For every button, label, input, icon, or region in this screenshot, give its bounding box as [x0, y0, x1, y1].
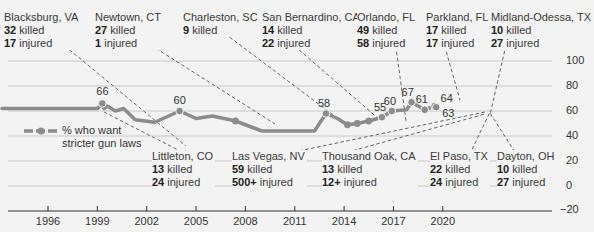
annotation-place: Las Vegas, NV [232, 150, 305, 163]
y-tick-label: 0 [566, 179, 572, 191]
annotation-place: Charleston, SC [183, 11, 258, 24]
annotation-san-bernardino-ca: San Bernardino, CA14 killed22 injured [262, 11, 362, 50]
annotation-killed: 49 killed [357, 24, 415, 37]
data-value-label: 61 [416, 93, 428, 105]
annotation-injured: 22 injured [262, 37, 360, 50]
annotation-killed: 10 killed [491, 24, 591, 37]
annotation-midland-odessa-tx: Midland-Odessa, TX10 killed27 injured [491, 11, 593, 50]
x-tick-label: 2005 [184, 215, 208, 227]
annotation-killed: 32 killed [4, 24, 78, 37]
annotation-parkland-fl: Parkland, FL17 killed17 injured [426, 11, 490, 50]
annotation-injured: 1 injured [95, 37, 161, 50]
data-value-label: 64 [441, 92, 453, 104]
annotation-place: Blacksburg, VA [4, 11, 78, 24]
annotation-killed: 59 killed [232, 163, 305, 176]
legend-label-line2: stricter gun laws [62, 137, 141, 150]
annotation-killed: 10 killed [497, 163, 554, 176]
annotation-killed: 9 killed [183, 24, 258, 37]
data-value-label: 63 [442, 107, 454, 119]
annotation-killed: 13 killed [322, 163, 416, 176]
data-value-label: 67 [402, 86, 414, 98]
annotation-injured: 27 injured [497, 176, 554, 189]
data-value-label: 66 [96, 85, 108, 97]
annotation-thousand-oak-ca: Thousand Oak, CA13 killed12+ injured [322, 150, 418, 189]
annotation-killed: 22 killed [430, 163, 488, 176]
x-tick-label: 2002 [134, 215, 158, 227]
legend-swatch-icon [24, 126, 58, 136]
annotation-injured: 58 injured [357, 37, 415, 50]
y-tick-label: 80 [566, 79, 578, 91]
annotation-injured: 24 injured [430, 176, 488, 189]
data-point [388, 107, 396, 115]
annotation-orlando-fl: Orlando, FL49 killed58 injured [357, 11, 417, 50]
data-point [432, 103, 440, 111]
data-point [98, 100, 106, 108]
annotation-injured: 17 injured [4, 37, 78, 50]
y-tick-label: 60 [566, 104, 578, 116]
x-tick-label: 2017 [381, 215, 405, 227]
annotation-el-paso-tx: El Paso, TX22 killed24 injured [430, 150, 490, 189]
x-tick-label: 1996 [36, 215, 60, 227]
x-tick-label: 2011 [283, 215, 307, 227]
data-point [408, 98, 416, 106]
x-tick-label: 2008 [233, 215, 257, 227]
annotation-injured: 24 injured [152, 176, 213, 189]
data-point [421, 106, 429, 114]
annotation-killed: 17 killed [426, 24, 488, 37]
data-point [378, 113, 386, 121]
data-value-label: 58 [318, 97, 330, 109]
data-point [176, 107, 184, 115]
annotation-killed: 13 killed [152, 163, 213, 176]
y-tick-label: 100 [566, 54, 584, 66]
annotation-place: Orlando, FL [357, 11, 415, 24]
annotation-blacksburg-va: Blacksburg, VA32 killed17 injured [4, 11, 80, 50]
annotation-place: Littleton, CO [152, 150, 213, 163]
annotation-place: Thousand Oak, CA [322, 150, 416, 163]
y-tick-label: 40 [566, 129, 578, 141]
data-value-label: 60 [174, 94, 186, 106]
x-axis [8, 206, 552, 211]
annotation-killed: 14 killed [262, 24, 360, 37]
x-tick-label: 1999 [85, 215, 109, 227]
annotation-littleton-co: Littleton, CO13 killed24 injured [152, 150, 215, 189]
annotation-place: Dayton, OH [497, 150, 554, 163]
annotation-injured: 27 injured [491, 37, 591, 50]
data-point [322, 110, 330, 118]
legend: % who want stricter gun laws [24, 124, 141, 150]
annotation-place: Parkland, FL [426, 11, 488, 24]
annotation-killed: 27 killed [95, 24, 161, 37]
annotation-place: Midland-Odessa, TX [491, 11, 591, 24]
annotation-charleston-sc: Charleston, SC9 killed [183, 11, 260, 37]
annotation-dayton-oh: Dayton, OH10 killed27 injured [497, 150, 556, 189]
x-tick-label: 2014 [332, 215, 356, 227]
x-tick-label: 2020 [431, 215, 455, 227]
annotation-injured: 500+ injured [232, 176, 305, 189]
annotation-newtown-ct: Newtown, CT27 killed1 injured [95, 11, 163, 50]
annotation-place: Newtown, CT [95, 11, 161, 24]
data-value-label: 60 [384, 95, 396, 107]
annotation-injured: 17 injured [426, 37, 488, 50]
annotation-injured: 12+ injured [322, 176, 416, 189]
annotation-las-vegas-nv: Las Vegas, NV59 killed500+ injured [232, 150, 307, 189]
y-tick-label: −20 [560, 203, 579, 215]
annotation-place: San Bernardino, CA [262, 11, 360, 24]
y-tick-label: 20 [566, 154, 578, 166]
legend-label-line1: % who want [62, 124, 141, 137]
annotation-place: El Paso, TX [430, 150, 488, 163]
